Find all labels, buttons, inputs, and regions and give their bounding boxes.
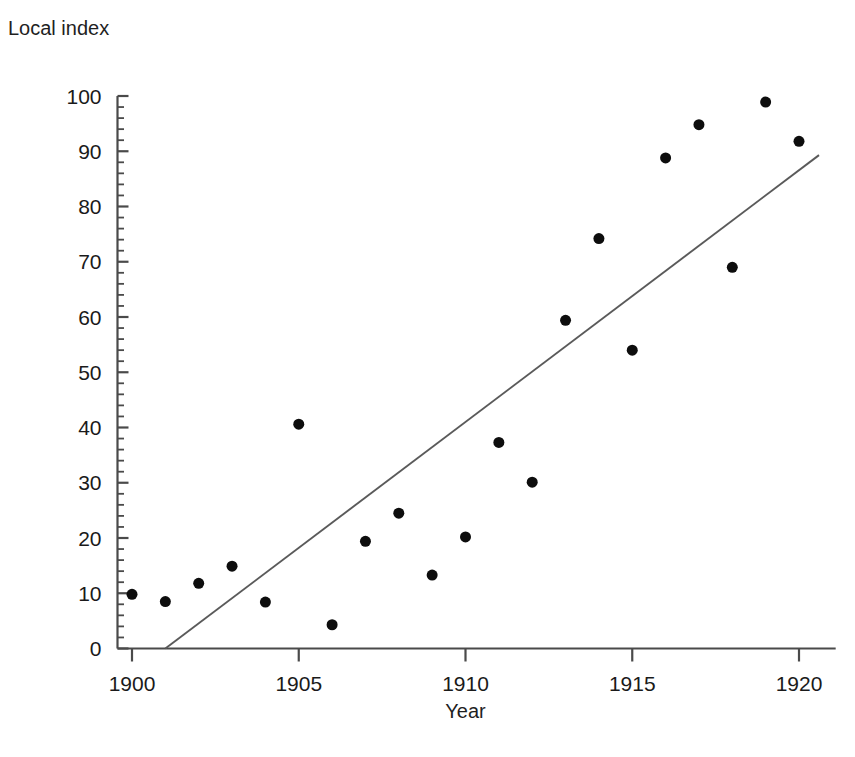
y-tick-label: 50 bbox=[78, 361, 101, 384]
x-tick-label: 1920 bbox=[776, 672, 823, 695]
data-point bbox=[193, 578, 204, 589]
chart-figure: Local index 0102030405060708090100 19001… bbox=[0, 0, 855, 757]
data-point bbox=[560, 315, 571, 326]
data-point bbox=[493, 437, 504, 448]
y-tick-label: 40 bbox=[78, 416, 101, 439]
data-point bbox=[427, 570, 438, 581]
data-point bbox=[260, 597, 271, 608]
y-tick-label: 60 bbox=[78, 306, 101, 329]
data-point bbox=[327, 619, 338, 630]
x-axis-label-wrap: Year bbox=[0, 700, 855, 723]
data-points-group bbox=[127, 97, 805, 631]
axes-group bbox=[118, 96, 836, 649]
data-point bbox=[127, 589, 138, 600]
y-tick-label: 100 bbox=[66, 85, 101, 108]
y-tick-label: 10 bbox=[78, 582, 101, 605]
x-tick-label: 1900 bbox=[109, 672, 156, 695]
y-tick-label: 0 bbox=[90, 637, 102, 660]
data-point bbox=[227, 561, 238, 572]
y-tick-label: 30 bbox=[78, 471, 101, 494]
data-point bbox=[360, 536, 371, 547]
data-point bbox=[527, 477, 538, 488]
x-tick-label: 1910 bbox=[442, 672, 489, 695]
regression-line bbox=[165, 155, 819, 648]
y-tick-label: 80 bbox=[78, 195, 101, 218]
scatter-plot-canvas: 0102030405060708090100 19001905191019151… bbox=[0, 0, 855, 757]
data-point bbox=[660, 152, 671, 163]
y-tick-label: 70 bbox=[78, 250, 101, 273]
data-point bbox=[794, 136, 805, 147]
data-point bbox=[293, 419, 304, 430]
data-point bbox=[760, 97, 771, 108]
x-tick-label: 1915 bbox=[609, 672, 656, 695]
data-point bbox=[460, 531, 471, 542]
y-tick-label: 90 bbox=[78, 140, 101, 163]
data-point bbox=[160, 596, 171, 607]
regression-line-segment bbox=[165, 155, 819, 648]
data-point bbox=[593, 233, 604, 244]
y-tick-label: 20 bbox=[78, 527, 101, 550]
y-axis-ticks: 0102030405060708090100 bbox=[66, 85, 128, 661]
data-point bbox=[693, 119, 704, 130]
x-axis-label: Year bbox=[445, 700, 485, 722]
data-point bbox=[627, 345, 638, 356]
data-point bbox=[727, 262, 738, 273]
x-axis-ticks: 19001905191019151920 bbox=[109, 649, 823, 695]
x-tick-label: 1905 bbox=[275, 672, 322, 695]
data-point bbox=[393, 508, 404, 519]
